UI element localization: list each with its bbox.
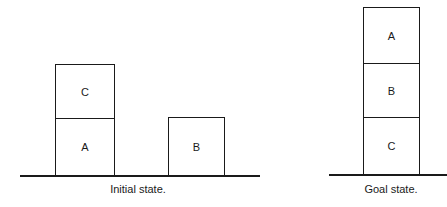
goal-block-c: C (363, 117, 420, 175)
block-label: A (388, 30, 395, 42)
goal-block-a: A (363, 7, 420, 64)
initial-table-line (20, 175, 260, 177)
block-label: B (388, 85, 395, 97)
goal-table-line (329, 174, 447, 176)
block-label: A (81, 141, 88, 153)
block-label: B (193, 141, 200, 153)
goal-block-b: B (363, 63, 420, 118)
goal-state-caption: Goal state. (341, 183, 441, 195)
initial-block-b: B (168, 117, 225, 176)
initial-block-c: C (55, 64, 115, 119)
block-label: C (388, 140, 396, 152)
initial-block-a: A (55, 118, 115, 176)
block-label: C (81, 86, 89, 98)
initial-state-caption: Initial state. (88, 183, 188, 195)
